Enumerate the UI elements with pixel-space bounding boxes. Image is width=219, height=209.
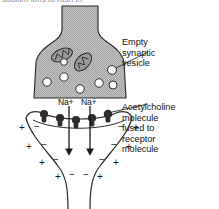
acetylcholine-receptor — [88, 114, 96, 127]
synapse-diagram-canvas: sodium ions to rush in — [0, 0, 219, 209]
charge-minus: − — [99, 154, 105, 165]
synaptic-vesicle — [109, 81, 117, 89]
synapse-illustration: + − + − + − + − − + − + − + − + — [0, 0, 219, 209]
sodium-ion-label-left: Na+ — [58, 98, 73, 107]
charge-plus: + — [19, 122, 25, 133]
charge-minus: − — [83, 169, 89, 180]
sodium-ion-label-right: Na+ — [81, 98, 96, 107]
charge-plus: + — [39, 157, 45, 168]
label-acetylcholine-molecule: Acetylcholine molecule fused to receptor… — [122, 102, 175, 155]
charge-minus: − — [34, 121, 40, 132]
acetylcholine-receptor — [40, 110, 48, 123]
charge-plus: + — [97, 171, 103, 182]
synaptic-vesicle — [61, 59, 68, 66]
charge-plus: + — [113, 157, 119, 168]
charge-minus: − — [41, 139, 47, 150]
acetylcholine-receptor — [56, 114, 64, 127]
charge-minus: − — [111, 139, 117, 150]
acetylcholine-receptor-labelled — [104, 110, 113, 123]
charge-minus: − — [53, 154, 59, 165]
charge-minus: − — [69, 169, 75, 180]
synaptic-vesicle — [60, 73, 68, 81]
synaptic-vesicle — [95, 79, 103, 87]
label-empty-synaptic-vesicle: Empty synaptic vesicle — [122, 37, 155, 69]
synaptic-vesicle — [43, 78, 51, 86]
synaptic-vesicle-labelled — [108, 66, 117, 75]
acetylcholine-receptor — [72, 116, 80, 128]
synaptic-vesicle — [76, 85, 84, 93]
charge-plus: + — [55, 171, 61, 182]
charge-plus: + — [26, 141, 32, 152]
